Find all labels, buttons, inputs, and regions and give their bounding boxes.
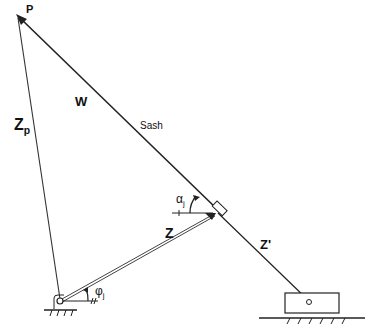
- label-phi: φj: [95, 285, 105, 300]
- label-p: P: [26, 4, 33, 15]
- label-z: Z: [165, 226, 174, 240]
- ground-hatch-pivot: [50, 310, 73, 316]
- phi-arrow-icon: [83, 287, 88, 293]
- pivot-joint: [57, 298, 63, 304]
- vector-w-sash: [19, 17, 218, 210]
- slider-block: [285, 293, 339, 313]
- label-w: W: [75, 95, 87, 108]
- mechanism-diagram: [0, 0, 372, 336]
- label-sash: Sash: [140, 121, 163, 131]
- vector-zp: [18, 18, 60, 299]
- label-zp: Zp: [14, 117, 30, 137]
- ground-hatch-slider: [287, 318, 345, 324]
- label-z-prime: Z': [260, 238, 271, 251]
- vector-z: [62, 214, 214, 299]
- vector-z-prime: [218, 213, 309, 301]
- slider-pin: [307, 300, 312, 305]
- label-alpha: αj: [176, 193, 185, 208]
- alpha-arrow-icon: [193, 195, 200, 201]
